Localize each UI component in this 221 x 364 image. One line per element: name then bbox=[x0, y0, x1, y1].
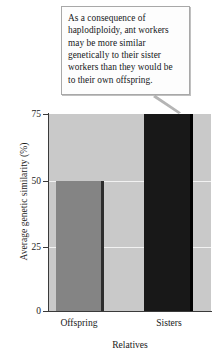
x-axis-line bbox=[48, 311, 212, 312]
bar-sisters bbox=[144, 114, 190, 311]
y-tick-mark-50 bbox=[43, 181, 49, 182]
y-axis-line bbox=[48, 113, 49, 312]
y-tick-mark-0 bbox=[43, 311, 49, 312]
bar-offspring-shadow-edge bbox=[101, 181, 104, 311]
y-tick-label-0: 0 bbox=[1, 306, 41, 316]
y-axis-title: Average genetic similarity (%) bbox=[18, 107, 29, 297]
x-tick-label-sisters: Sisters bbox=[142, 317, 196, 328]
x-tick-label-offspring: Offspring bbox=[50, 317, 108, 328]
y-tick-mark-75 bbox=[43, 114, 49, 115]
bar-sisters-shadow-edge bbox=[190, 114, 193, 311]
annotation-callout: As a consequence of haplodiploidy, ant w… bbox=[61, 6, 190, 95]
y-tick-mark-25 bbox=[43, 247, 49, 248]
x-axis-title: Relatives bbox=[49, 339, 211, 350]
bar-offspring bbox=[56, 181, 101, 311]
annotation-text: As a consequence of haplodiploidy, ant w… bbox=[68, 12, 184, 86]
